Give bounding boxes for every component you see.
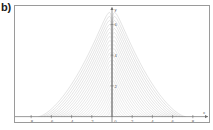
x-tick-label--2: -2 (90, 119, 94, 123)
plot-canvas (15, 6, 209, 122)
panel-label: b) (1, 1, 11, 13)
plot-frame: -8-6-4-202468 246 xy (14, 5, 210, 123)
x-tick-label--6: -6 (50, 119, 54, 123)
x-axis-arrow (205, 115, 208, 118)
y-axis-arrow (110, 7, 113, 10)
y-axis-name: y (114, 7, 116, 12)
y-tick-label-2: 2 (115, 83, 117, 88)
figure-panel: b) -8-6-4-202468 246 xy (0, 0, 213, 130)
x-tick-label-2: 2 (131, 119, 133, 123)
y-tick-label-6: 6 (115, 22, 117, 27)
x-tick-label--8: -8 (29, 119, 33, 123)
x-tick-label-6: 6 (171, 119, 173, 123)
x-axis-name: x (203, 110, 205, 115)
x-tick-label-4: 4 (151, 119, 153, 123)
x-tick-label-0: 0 (114, 119, 116, 123)
x-tick-label-8: 8 (192, 119, 194, 123)
y-tick-label-4: 4 (115, 53, 117, 58)
x-tick-label--4: -4 (70, 119, 74, 123)
